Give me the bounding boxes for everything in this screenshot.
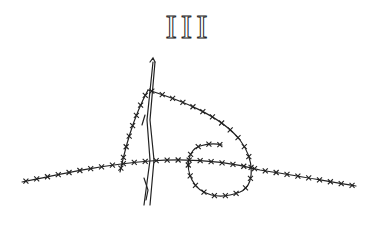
- loop-wire: [148, 90, 251, 196]
- barbed-wire-illustration: [0, 0, 377, 225]
